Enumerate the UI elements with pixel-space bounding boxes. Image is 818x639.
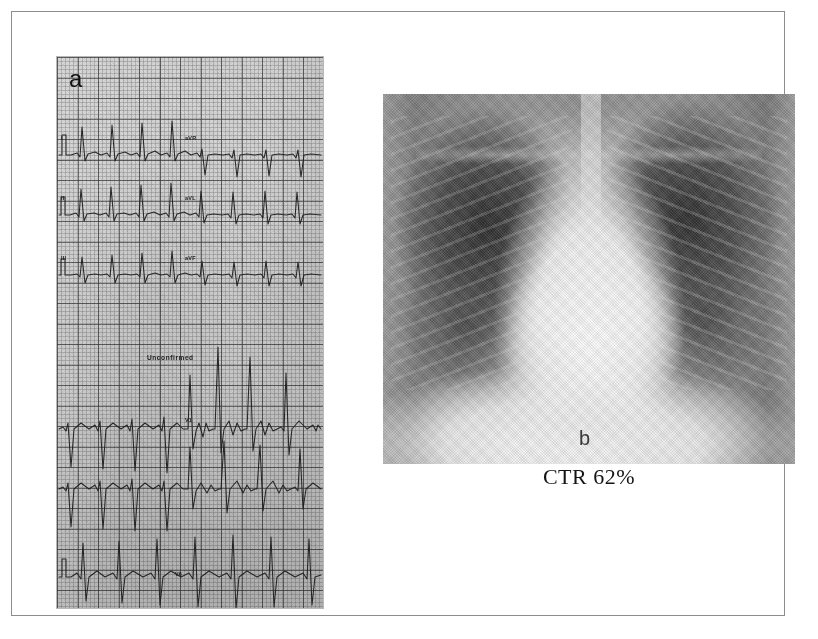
xray-caption-ctr: CTR 62% <box>383 464 795 490</box>
ecg-panel: a Unconfirmed I aVR II aVL III aVF V1 V6 <box>57 57 323 608</box>
ecg-lead-tag-avl: aVL <box>185 195 196 201</box>
ecg-unconfirmed-annotation: Unconfirmed <box>147 354 194 361</box>
xray-clavicle-shadows <box>416 127 762 175</box>
ecg-lead-tag-v1: V1 <box>185 417 192 423</box>
ecg-lead-tag-avf: aVF <box>185 255 196 261</box>
panel-label-a: a <box>69 67 82 91</box>
ecg-lead-tag-avr: aVR <box>185 135 196 141</box>
ecg-lead-tag-ii: II <box>61 195 64 201</box>
figure-border-frame: a Unconfirmed I aVR II aVL III aVF V1 V6… <box>11 11 785 616</box>
ecg-lead-tag-iii: III <box>61 255 66 261</box>
ecg-lead-tag-i: I <box>61 135 63 141</box>
ecg-lead-tag-v6: V6 <box>175 571 182 577</box>
chest-xray-panel: b <box>383 94 795 464</box>
panel-label-b: b <box>579 428 590 448</box>
xray-cardiac-silhouette <box>498 242 688 449</box>
